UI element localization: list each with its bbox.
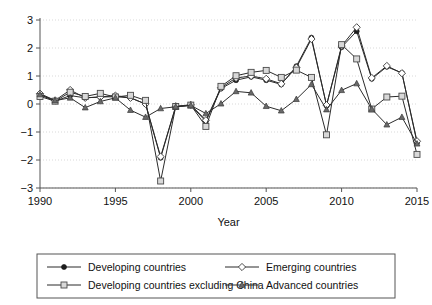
- marker-triangle: [203, 110, 209, 116]
- marker-triangle: [354, 80, 360, 86]
- marker-square: [308, 74, 314, 80]
- marker-triangle: [218, 101, 224, 107]
- marker-square: [339, 42, 345, 48]
- marker-square: [293, 67, 299, 73]
- marker-square: [218, 83, 224, 89]
- line-chart: 3210−1−2−3 199019952000200520102015 Year…: [0, 0, 432, 305]
- chart-legend: Developing countriesEmerging countriesDe…: [37, 254, 395, 298]
- series-line: [40, 27, 417, 156]
- marker-square: [97, 90, 103, 96]
- y-tick-label: 1: [27, 70, 33, 82]
- y-tick-label: −3: [20, 182, 33, 194]
- x-axis-title: Year: [217, 216, 240, 228]
- axes: [36, 18, 417, 192]
- series-line: [40, 45, 417, 181]
- marker-square: [414, 151, 420, 157]
- marker-diamond: [398, 70, 405, 77]
- series-3: [37, 80, 420, 146]
- marker-triangle: [128, 107, 134, 113]
- x-tick-label: 2015: [405, 195, 429, 207]
- marker-square: [263, 67, 269, 73]
- x-tick-label: 2000: [179, 195, 203, 207]
- x-tick-label: 2010: [329, 195, 353, 207]
- marker-diamond: [157, 153, 164, 160]
- x-tick-label: 1995: [103, 195, 127, 207]
- x-axis-tick-labels: 199019952000200520102015: [28, 195, 429, 207]
- y-tick-label: 3: [27, 14, 33, 26]
- marker-square: [399, 93, 405, 99]
- y-axis-tick-labels: 3210−1−2−3: [20, 14, 33, 194]
- x-tick-label: 2005: [254, 195, 278, 207]
- series-1: [36, 24, 420, 161]
- legend-label: Emerging countries: [266, 261, 356, 273]
- legend-item-0[interactable]: Developing countries: [47, 261, 186, 273]
- marker-square: [127, 92, 133, 98]
- marker-square: [82, 93, 88, 99]
- marker-circle: [62, 265, 67, 270]
- marker-square: [324, 132, 330, 138]
- marker-diamond: [238, 263, 245, 270]
- legend-label: Developing countries: [88, 261, 186, 273]
- x-tick-label: 1990: [28, 195, 52, 207]
- y-tick-label: −1: [20, 126, 33, 138]
- marker-square: [203, 123, 209, 129]
- marker-square: [248, 69, 254, 75]
- marker-square: [143, 97, 149, 103]
- marker-square: [61, 282, 67, 288]
- marker-square: [233, 73, 239, 79]
- gridlines: [40, 20, 417, 188]
- marker-square: [354, 56, 360, 62]
- marker-square: [278, 74, 284, 80]
- series-2: [37, 42, 420, 184]
- legend-item-1[interactable]: Emerging countries: [225, 261, 356, 273]
- series-line: [40, 84, 417, 144]
- marker-triangle: [399, 114, 405, 120]
- marker-square: [384, 94, 390, 100]
- marker-triangle: [233, 88, 239, 94]
- y-tick-label: 0: [27, 98, 33, 110]
- y-tick-label: 2: [27, 42, 33, 54]
- marker-square: [158, 178, 164, 184]
- y-tick-label: −2: [20, 154, 33, 166]
- legend-label: Advanced countries: [266, 279, 358, 291]
- chart-container: 3210−1−2−3 199019952000200520102015 Year…: [0, 0, 432, 305]
